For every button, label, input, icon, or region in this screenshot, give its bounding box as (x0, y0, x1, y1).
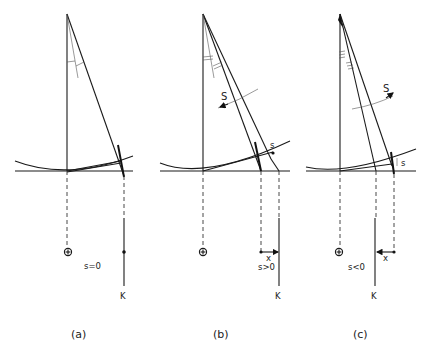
panel-b: S s x s>0 K (b) (160, 14, 290, 341)
condition-label: s=0 (84, 261, 101, 271)
condition-label: s>0 (258, 262, 275, 272)
panel-a: s=0 K (a) (15, 14, 133, 341)
panel-caption: (c) (353, 328, 368, 341)
k-label: K (371, 291, 377, 301)
slanted-line-outer (203, 14, 271, 159)
angle-tick (76, 62, 84, 66)
arc-curve (306, 149, 416, 169)
x-label: x (383, 253, 388, 263)
angle-tick (213, 62, 222, 66)
inner-ray (67, 14, 78, 78)
panel-c: S s x s<0 K (c) (306, 14, 416, 341)
s-small-label: s (270, 140, 275, 150)
angle-tick (214, 65, 223, 69)
origin-circle-plus-icon (335, 248, 342, 255)
angle-tick (203, 59, 213, 60)
panel-caption: (b) (213, 328, 229, 341)
origin-circle-plus-icon (199, 248, 206, 255)
arc-curve (15, 156, 133, 170)
chord (203, 152, 273, 171)
origin-circle-plus-icon (64, 248, 71, 255)
s-label: S (383, 83, 389, 94)
slanted-line-outer-tail (271, 159, 279, 171)
inner-ray (203, 14, 214, 78)
k-label: K (275, 291, 281, 301)
s-arrow-icon (220, 104, 228, 107)
chord (67, 161, 121, 171)
k-label: K (120, 291, 126, 301)
slanted-line-inner (340, 14, 376, 171)
panel-caption: (a) (71, 328, 86, 341)
diagram-canvas: s=0 K (a) S s x s>0 (0, 0, 422, 351)
s-label: S (221, 91, 227, 102)
angle-tick (203, 56, 213, 57)
s-point (271, 151, 274, 154)
s-small-label: s (401, 158, 406, 168)
condition-label: s<0 (348, 262, 365, 272)
angle-tick (67, 61, 75, 62)
k-point (122, 250, 126, 254)
slanted-line (67, 14, 124, 176)
